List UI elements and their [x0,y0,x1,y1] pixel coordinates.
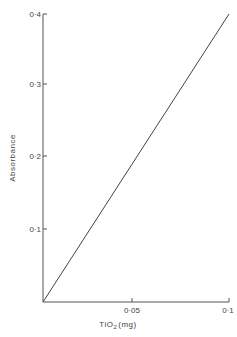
x-tick-label: 0·1 [222,306,234,315]
y-axis-title: Absorbance [8,134,17,182]
y-tick-label: 0·3 [29,80,41,89]
y-tick-label: 0·2 [29,152,41,161]
y-tick-label: 0·1 [29,225,41,234]
x-tick-label: 0·05 [124,306,141,315]
series-line [43,14,229,302]
x-axis-title: TiO2(mg) [99,320,136,330]
chart: 0·4 0·3 0·2 0·1 0·05 0·1 Absorbance TiO2… [0,0,237,337]
y-tick-label: 0·4 [29,10,41,19]
